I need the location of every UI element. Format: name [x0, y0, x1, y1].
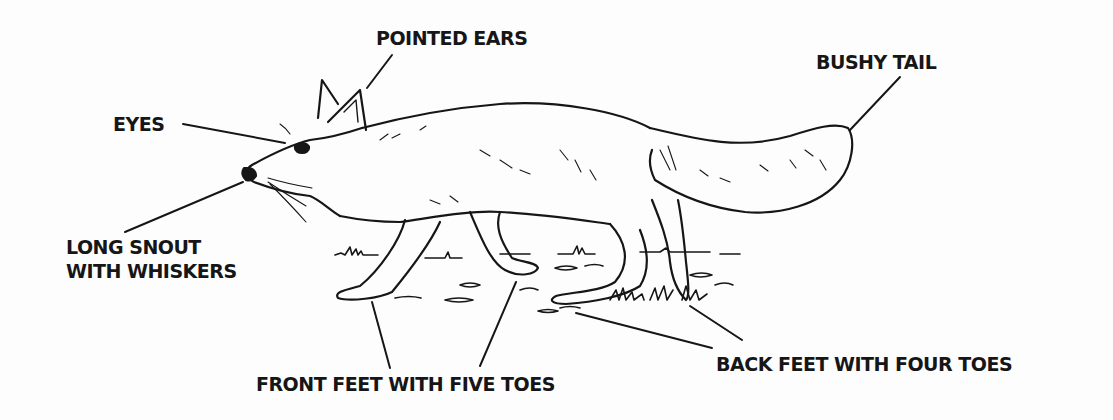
leader-front-feet-2: [480, 282, 516, 366]
label-long-snout-line2: WITH WHISKERS: [66, 259, 237, 283]
leader-back-feet-1: [576, 313, 712, 348]
fox-tail: [650, 126, 852, 213]
leader-front-feet-1: [372, 302, 390, 368]
ground-grass: [335, 246, 740, 313]
label-long-snout: LONG SNOUT WITH WHISKERS: [66, 235, 237, 283]
label-back-feet: BACK FEET WITH FOUR TOES: [716, 352, 1012, 376]
fox-ear-back: [318, 80, 338, 118]
leader-lines: [125, 55, 900, 368]
label-pointed-ears: POINTED EARS: [376, 26, 527, 50]
fox-anatomy-diagram: POINTED EARS BUSHY TAIL EYES LONG SNOUT …: [0, 0, 1113, 420]
label-eyes: EYES: [113, 112, 164, 136]
leader-bushy-tail: [850, 77, 900, 130]
leader-back-feet-2: [690, 306, 742, 340]
leader-eyes: [183, 124, 285, 143]
fox-back-leg-2: [652, 200, 688, 300]
fox-head: [247, 128, 362, 216]
fox-whiskers: [268, 124, 312, 222]
fox-body: [242, 80, 852, 304]
fox-front-leg-1: [337, 220, 440, 300]
label-front-feet: FRONT FEET WITH FIVE TOES: [256, 372, 555, 396]
leader-long-snout: [125, 182, 243, 232]
fox-eye: [295, 143, 309, 153]
fox-nose: [242, 168, 256, 181]
leader-pointed-ears: [367, 55, 392, 88]
label-long-snout-line1: LONG SNOUT: [66, 235, 237, 259]
label-bushy-tail: BUSHY TAIL: [816, 50, 936, 74]
fox-front-leg-2: [470, 212, 538, 274]
